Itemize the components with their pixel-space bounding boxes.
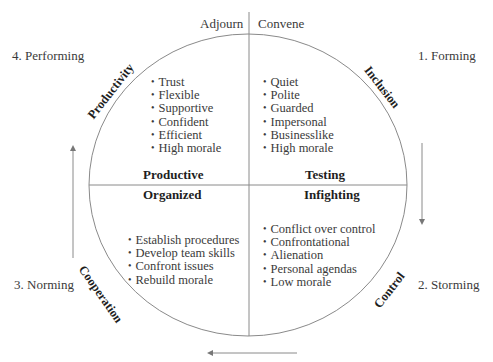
quadrant-top-right-list: Quiet Polite Guarded Impersonal Business… [263, 76, 334, 155]
list-item: Alienation [263, 249, 375, 262]
list-item: High morale [151, 142, 221, 155]
list-item: Rebuild morale [128, 274, 239, 287]
list-item: Supportive [151, 102, 221, 115]
list-item: High morale [263, 142, 334, 155]
quadrant-bottom-right-list: Conflict over control Confrontational Al… [263, 223, 375, 289]
stage-forming: 1. Forming [418, 48, 476, 64]
list-item: Confront issues [128, 260, 239, 273]
stage-storming: 2. Storming [418, 277, 479, 293]
list-item: Personal agendas [263, 263, 375, 276]
heading-productive: Productive [143, 167, 203, 183]
quadrant-top-left-list: Trust Flexible Supportive Confident Effi… [151, 76, 221, 155]
heading-testing: Testing [305, 167, 345, 183]
list-item: Confident [151, 116, 221, 129]
list-item: Low morale [263, 276, 375, 289]
label-adjourn: Adjourn [200, 16, 243, 32]
list-item: Guarded [263, 102, 334, 115]
label-convene: Convene [258, 16, 304, 32]
list-item: Impersonal [263, 116, 334, 129]
stage-performing: 4. Performing [12, 48, 84, 64]
heading-organized: Organized [143, 187, 202, 203]
stage-norming: 3. Norming [14, 277, 74, 293]
quadrant-bottom-left-list: Establish procedures Develop team skills… [128, 234, 239, 287]
team-stages-diagram: Adjourn Convene 1. Forming 2. Storming 3… [0, 0, 493, 362]
heading-infighting: Infighting [304, 187, 360, 203]
